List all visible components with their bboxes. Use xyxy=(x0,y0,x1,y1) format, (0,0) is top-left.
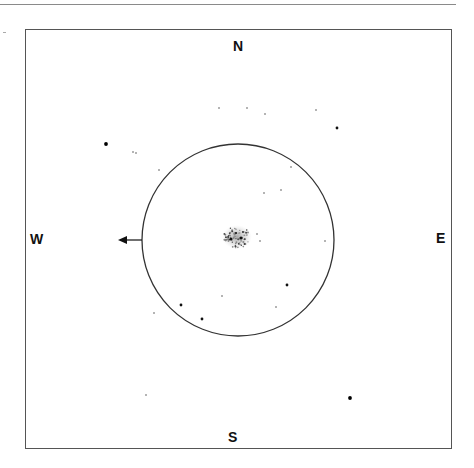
cluster-speck xyxy=(238,232,239,233)
arrow-left-icon xyxy=(118,236,127,244)
cluster-speck xyxy=(235,243,237,245)
cluster-speck xyxy=(235,229,236,230)
cluster-speck xyxy=(245,232,247,234)
cluster-speck xyxy=(234,228,235,229)
cluster-speck xyxy=(235,238,236,239)
cluster-speck xyxy=(223,239,225,241)
star xyxy=(221,295,223,297)
star xyxy=(263,192,265,194)
star xyxy=(104,142,108,146)
cluster-speck xyxy=(235,247,236,248)
cluster-speck xyxy=(239,230,240,231)
cluster-speck xyxy=(232,242,233,243)
cluster-speck xyxy=(229,233,230,234)
cluster-speck xyxy=(226,238,228,240)
cluster-speck xyxy=(246,229,248,231)
cluster-speck xyxy=(239,232,241,234)
star xyxy=(286,284,289,287)
cluster-star xyxy=(239,236,242,239)
cluster-speck xyxy=(230,228,231,229)
star xyxy=(132,151,134,153)
cluster-star xyxy=(235,232,237,234)
cluster-speck xyxy=(229,235,231,237)
cluster-speck xyxy=(231,230,233,232)
cluster-speck xyxy=(242,246,244,248)
star xyxy=(135,152,137,154)
cluster-speck xyxy=(244,238,246,240)
cluster-speck xyxy=(237,246,239,248)
star-field xyxy=(0,0,474,468)
star xyxy=(158,169,160,171)
star xyxy=(275,306,277,308)
cluster-speck xyxy=(238,238,239,239)
star xyxy=(180,304,183,307)
cluster-star xyxy=(242,231,244,233)
cluster-speck xyxy=(247,241,248,242)
cluster-speck xyxy=(235,245,236,246)
cluster-speck xyxy=(232,246,234,248)
star xyxy=(259,240,261,242)
star xyxy=(324,240,326,242)
cluster-speck xyxy=(247,232,249,234)
cluster-speck xyxy=(239,244,241,246)
star xyxy=(218,107,220,109)
star xyxy=(290,166,292,168)
star xyxy=(256,233,258,235)
star xyxy=(201,318,204,321)
star xyxy=(348,396,352,400)
cluster-speck xyxy=(223,233,225,235)
cluster-speck xyxy=(242,241,244,243)
cluster-star xyxy=(230,238,233,241)
cluster-speck xyxy=(228,240,230,242)
cluster-speck xyxy=(225,236,227,238)
star xyxy=(315,109,317,111)
star xyxy=(246,107,248,109)
cluster-speck xyxy=(244,243,246,245)
star xyxy=(336,127,339,130)
star xyxy=(280,189,282,191)
cluster-speck xyxy=(243,234,245,236)
cluster-speck xyxy=(233,232,235,234)
star xyxy=(145,394,147,396)
cluster-speck xyxy=(241,244,242,245)
stars-layer xyxy=(104,107,352,400)
cluster-speck xyxy=(227,236,229,238)
cluster-speck xyxy=(240,240,242,242)
star xyxy=(264,113,266,115)
star xyxy=(153,312,155,314)
cluster-speck xyxy=(246,234,248,236)
cluster-speck xyxy=(239,242,240,243)
cluster-speck xyxy=(233,237,235,239)
